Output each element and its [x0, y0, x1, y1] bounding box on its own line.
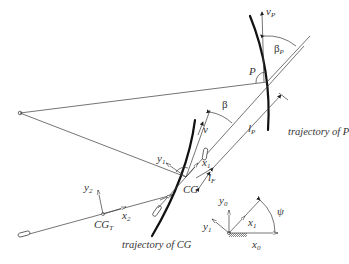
label-x2: x2 — [121, 209, 131, 223]
radius-to-p-line — [20, 82, 267, 113]
diagram-svg: vP βP P β v lP lF x1 y1 CG CGT x2 y2 y0 … — [0, 0, 349, 264]
label-beta: β — [222, 98, 228, 110]
psi-arc — [260, 200, 275, 233]
trailer-wheel — [18, 231, 31, 238]
y1-inertial-axis — [212, 219, 229, 233]
beta-arc — [210, 112, 232, 123]
x1-inertial-extension — [245, 200, 260, 216]
label-y1-inertial: y1 — [202, 220, 211, 234]
label-lp: lP — [248, 122, 256, 136]
label-x1-inertial: x1 — [247, 216, 256, 230]
label-cg: CG — [183, 183, 198, 195]
label-beta-p: βP — [274, 42, 285, 56]
lp-tick — [279, 93, 288, 100]
label-x1: x1 — [201, 156, 210, 170]
label-lf: lF — [208, 171, 216, 185]
y2-axis — [98, 190, 103, 214]
vp-arrow — [262, 12, 264, 82]
ground-hatch — [229, 233, 247, 237]
vehicle-kinematics-diagram: vP βP P β v lP lF x1 y1 CG CGT x2 y2 y0 … — [0, 0, 349, 264]
beta-p-arc — [264, 36, 296, 46]
label-p: P — [248, 65, 256, 77]
label-y2: y2 — [83, 181, 93, 195]
caption-trajectory-cg: trajectory of CG — [122, 239, 192, 250]
label-y0: y0 — [218, 194, 228, 208]
radius-to-cg-line — [20, 113, 186, 177]
trajectory-cg-curve — [152, 120, 195, 236]
rear-wheel — [152, 205, 162, 217]
x1-axis — [186, 163, 198, 177]
label-cgt: CGT — [94, 218, 114, 232]
label-v: v — [203, 123, 208, 135]
label-x0: x0 — [251, 238, 261, 252]
label-vp: vP — [266, 5, 276, 19]
label-psi: ψ — [277, 205, 284, 217]
label-y1: y1 — [156, 152, 165, 166]
rear-axle-line — [158, 177, 186, 208]
x1-inertial-axis — [229, 216, 245, 233]
caption-trajectory-p: trajectory of P — [288, 126, 349, 137]
